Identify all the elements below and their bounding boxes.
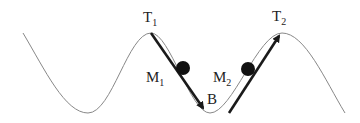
label-t1: T1 [143,9,157,28]
track-diagram: T1 T2 M1 M2 B [0,0,360,123]
label-m2: M2 [213,69,231,88]
label-b: B [207,91,217,107]
label-t2: T2 [272,8,286,27]
label-m1: M1 [146,69,164,88]
ball-m2 [241,62,255,76]
arrow-up-icon [229,36,279,113]
ball-m1 [176,61,190,75]
